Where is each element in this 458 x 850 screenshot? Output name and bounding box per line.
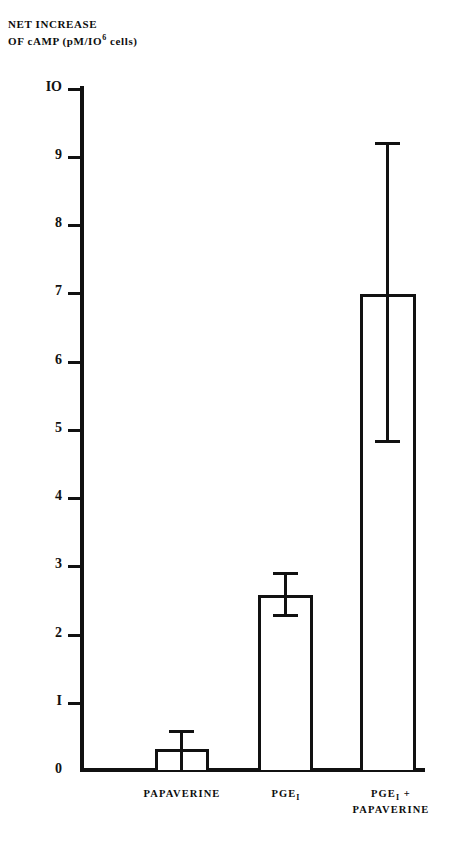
y-tick-2 [68,634,82,637]
y-tick-10 [68,88,82,91]
y-tick-label-2: 2 [22,625,62,641]
axis-title-line-1: NET INCREASE [8,16,288,33]
error-bar-stem-pge1 [284,572,287,617]
y-tick-label-8: 8 [22,215,62,231]
error-bar-stem-pge1-plus-papaverine [386,142,389,443]
axis-title-line-2: OF cAMP (pM/IO6 cells) [8,33,288,50]
y-tick-3 [68,565,82,568]
y-tick-label-0: 0 [22,761,62,777]
error-bar-cap-lower-pge1-plus-papaverine [375,440,400,443]
y-tick-1 [68,702,82,705]
x-label-combo-line-1: PGEI + [371,788,411,799]
y-tick-label-6: 6 [22,352,62,368]
x-label-combo-plus: + [400,788,411,799]
error-bar-cap-lower-pge1 [273,614,298,617]
y-tick-9 [68,156,82,159]
y-tick-label-4: 4 [22,488,62,504]
y-tick-label-3: 3 [22,556,62,572]
error-bar-stem-papaverine [180,730,183,770]
bar-pge1 [258,595,313,770]
error-bar-cap-upper-papaverine [169,730,194,733]
y-tick-label-9: 9 [22,147,62,163]
x-label-pge1-subscript: I [296,793,300,802]
y-tick-label-10: IO [22,79,62,95]
x-label-pge1-plus-papaverine: PGEI + PAPAVERINE [328,786,454,818]
error-bar-cap-upper-pge1-plus-papaverine [375,142,400,145]
axis-title-line-2-suffix: cells) [107,35,138,47]
axis-title-line-2-prefix: OF cAMP (pM/IO [8,35,102,47]
y-tick-4 [68,497,82,500]
y-tick-label-1: I [22,693,62,709]
chart-figure: NET INCREASE OF cAMP (pM/IO6 cells) IO 9… [0,0,458,850]
y-tick-6 [68,361,82,364]
x-label-combo-text: PGE [371,788,396,799]
y-tick-8 [68,224,82,227]
y-tick-label-5: 5 [22,420,62,436]
x-label-combo-line-2: PAPAVERINE [353,804,430,815]
chart-axis-title: NET INCREASE OF cAMP (pM/IO6 cells) [8,16,288,50]
y-tick-5 [68,429,82,432]
y-tick-label-7: 7 [22,283,62,299]
x-label-papaverine-text: PAPAVERINE [144,788,221,799]
error-bar-cap-upper-pge1 [273,572,298,575]
x-label-pge1-text: PGE [271,788,296,799]
x-label-papaverine: PAPAVERINE [112,786,252,802]
y-tick-7 [68,292,82,295]
x-label-pge1: PGEI [241,786,331,802]
